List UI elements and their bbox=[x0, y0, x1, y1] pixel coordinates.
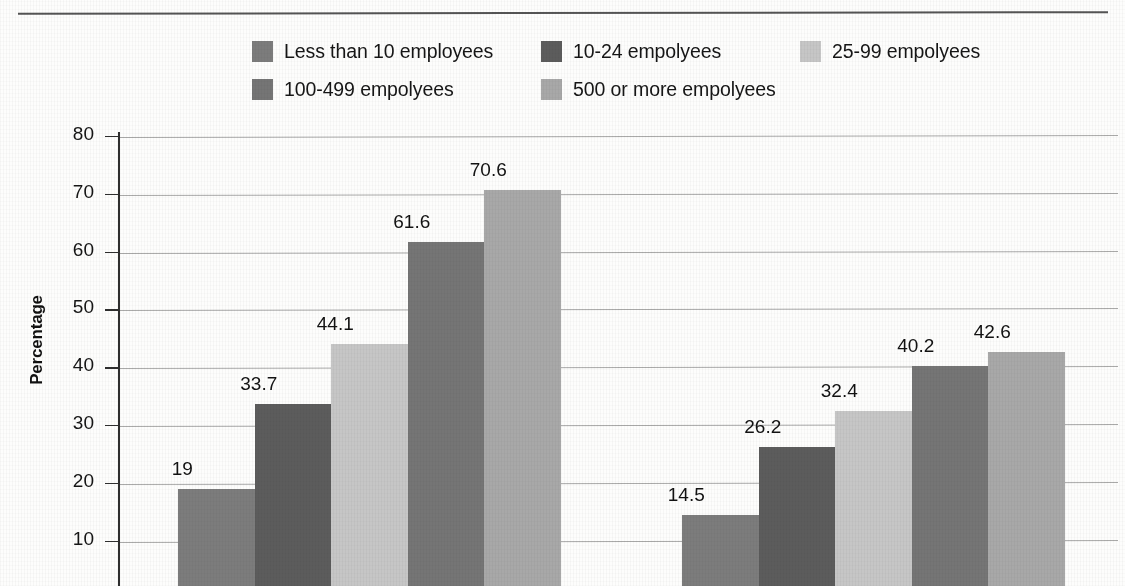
plot-area: Percentage80706050403020101933.744.161.6… bbox=[0, 0, 1125, 586]
y-axis-tick-label: 20 bbox=[48, 470, 94, 492]
gridline bbox=[118, 308, 1118, 311]
bar[interactable] bbox=[835, 411, 912, 586]
y-axis-tick bbox=[105, 136, 119, 137]
y-axis-tick bbox=[105, 483, 119, 484]
y-axis-tick bbox=[105, 425, 119, 426]
y-axis-line bbox=[118, 132, 120, 586]
y-axis-title: Percentage bbox=[27, 295, 47, 385]
y-axis-tick bbox=[105, 252, 119, 253]
bar-value-label: 33.7 bbox=[221, 373, 298, 395]
bar[interactable] bbox=[759, 447, 836, 586]
bar[interactable] bbox=[331, 344, 408, 586]
bar-value-label: 70.6 bbox=[450, 159, 527, 181]
bar[interactable] bbox=[682, 515, 759, 586]
bar-value-label: 44.1 bbox=[297, 313, 374, 335]
y-axis-tick-label: 70 bbox=[48, 181, 94, 203]
y-axis-tick-label: 40 bbox=[48, 354, 94, 376]
bar[interactable] bbox=[988, 352, 1065, 586]
bar-value-label: 61.6 bbox=[374, 211, 451, 233]
bar-value-label: 42.6 bbox=[954, 321, 1031, 343]
gridline bbox=[118, 251, 1118, 254]
bar[interactable] bbox=[912, 366, 989, 586]
bar[interactable] bbox=[255, 404, 332, 586]
y-axis-tick-label: 10 bbox=[48, 528, 94, 550]
bar-value-label: 19 bbox=[144, 458, 221, 480]
y-axis-tick-label: 50 bbox=[48, 296, 94, 318]
y-axis-tick-label: 60 bbox=[48, 239, 94, 261]
gridline bbox=[118, 193, 1118, 196]
y-axis-tick bbox=[105, 541, 119, 542]
y-axis-tick-label: 80 bbox=[48, 123, 94, 145]
gridline bbox=[118, 135, 1118, 138]
bar[interactable] bbox=[484, 190, 561, 586]
bar-value-label: 32.4 bbox=[801, 380, 878, 402]
y-axis-tick bbox=[105, 309, 119, 310]
y-axis-tick bbox=[105, 194, 119, 195]
bar-value-label: 26.2 bbox=[725, 416, 802, 438]
bar[interactable] bbox=[408, 242, 485, 586]
chart-page: Less than 10 employees10-24 empolyees25-… bbox=[0, 0, 1125, 586]
y-axis-tick-label: 30 bbox=[48, 412, 94, 434]
bar-value-label: 40.2 bbox=[878, 335, 955, 357]
bar-value-label: 14.5 bbox=[648, 484, 725, 506]
y-axis-tick bbox=[105, 367, 119, 368]
bar[interactable] bbox=[178, 489, 255, 586]
